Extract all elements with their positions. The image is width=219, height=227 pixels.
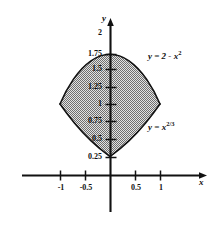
math-figure: 2 1.75 1.5 1.25 1 0.75 0.5 0.25 -1 -0.5 … [0,0,219,227]
x-tick-label-1: 1 [150,184,172,192]
y-tick-label-1: 1 [74,100,102,108]
y-tick-label-0p25: 0.25 [74,153,102,161]
lower-curve-label: y = x2/3 [148,123,174,132]
upper-curve-label-prefix: y = 2 - [148,51,174,61]
y-axis-label: y [102,14,106,23]
lower-curve-label-exponent: 2/3 [166,120,174,127]
x-tick-label-0p5: 0.5 [122,184,150,192]
y-tick-label-1p25: 1.25 [74,83,102,91]
lower-curve-label-prefix: y = [148,122,162,132]
x-axis [22,172,207,179]
upper-curve-label: y = 2 - x2 [148,52,181,61]
plot-canvas [0,0,219,227]
x-tick-label-neg1: -1 [50,184,72,192]
y-tick-label-1p75: 1.75 [74,50,102,58]
x-tick-label-neg0p5: -0.5 [72,184,100,192]
y-tick-label-1p5: 1.5 [74,65,102,73]
y-tick-label-0p75: 0.75 [74,117,102,125]
y-tick-label-2: 2 [74,29,102,37]
y-tick-label-0p5: 0.5 [74,135,102,143]
x-axis-label: x [199,178,204,187]
upper-curve-label-exponent: 2 [178,49,181,56]
